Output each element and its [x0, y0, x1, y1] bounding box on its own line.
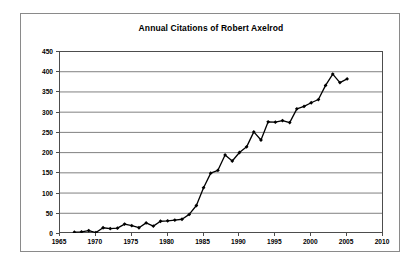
data-point-marker [173, 218, 177, 222]
y-axis-tick [56, 51, 59, 52]
chart-frame: Annual Citations of Robert Axelrod 05010… [20, 13, 400, 252]
x-axis-tick-label: 1980 [147, 238, 187, 245]
plot-svg [60, 51, 383, 233]
y-axis-tick [56, 213, 59, 214]
data-point-marker [281, 119, 285, 123]
data-line [74, 74, 347, 233]
data-point-marker [80, 230, 84, 233]
y-axis-tick-label: 200 [23, 149, 53, 156]
x-axis-tick [346, 233, 347, 236]
x-axis-tick-label: 2000 [290, 238, 330, 245]
x-axis-tick-label: 1990 [218, 238, 258, 245]
data-point-marker [130, 224, 134, 228]
x-axis-tick-label: 2010 [362, 238, 402, 245]
x-axis-tick [310, 233, 311, 236]
x-axis-tick [95, 233, 96, 236]
x-axis-tick-label: 1985 [183, 238, 223, 245]
x-axis-tick-label: 2005 [326, 238, 366, 245]
y-axis-tick-label: 400 [23, 68, 53, 75]
chart-title: Annual Citations of Robert Axelrod [21, 23, 401, 33]
y-axis-tick [56, 132, 59, 133]
plot-area [59, 51, 382, 233]
y-axis-tick-label: 100 [23, 189, 53, 196]
y-axis-tick-label: 0 [23, 230, 53, 237]
x-axis-tick [131, 233, 132, 236]
chart-page: Annual Citations of Robert Axelrod 05010… [0, 0, 416, 268]
data-point-marker [108, 227, 112, 231]
y-axis-tick [56, 152, 59, 153]
y-axis-tick [56, 91, 59, 92]
x-axis-tick [203, 233, 204, 236]
x-axis-tick [59, 233, 60, 236]
y-axis-tick-label: 50 [23, 209, 53, 216]
y-axis-tick [56, 172, 59, 173]
data-point-marker [266, 120, 270, 124]
x-axis-tick-label: 1995 [254, 238, 294, 245]
data-point-marker [166, 219, 170, 223]
x-axis-tick [167, 233, 168, 236]
data-point-marker [72, 230, 76, 233]
x-axis-tick [274, 233, 275, 236]
y-axis-tick [56, 193, 59, 194]
y-axis-tick-label: 150 [23, 169, 53, 176]
x-axis-tick [382, 233, 383, 236]
data-point-marker [87, 229, 91, 233]
y-axis-tick-label: 350 [23, 88, 53, 95]
data-point-marker [273, 120, 277, 124]
x-axis-tick-label: 1970 [75, 238, 115, 245]
x-axis-tick-label: 1975 [111, 238, 151, 245]
x-axis-tick [238, 233, 239, 236]
y-axis-tick-label: 300 [23, 108, 53, 115]
x-axis-tick-label: 1965 [39, 238, 79, 245]
y-axis-tick [56, 112, 59, 113]
y-axis-tick [56, 71, 59, 72]
y-axis-tick-label: 450 [23, 48, 53, 55]
y-axis-tick-label: 250 [23, 128, 53, 135]
